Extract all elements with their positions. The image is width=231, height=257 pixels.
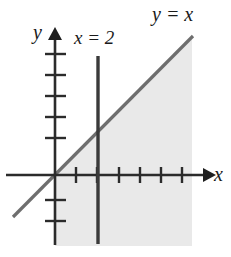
vertical-line-equation-text: x = 2 [74,27,114,48]
y-axis-arrow-icon [48,27,62,40]
math-figure: y = x x = 2 y x [0,0,231,257]
shaded-region [55,38,192,246]
x-axis-label-text: x [214,163,223,185]
y-axis-label: y [33,22,42,42]
line-equation-text: y = x [152,3,193,25]
vertical-line-equation-label: x = 2 [74,28,114,47]
y-axis-label-text: y [33,21,42,43]
line-equation-label: y = x [152,4,193,24]
x-axis-label: x [214,164,223,184]
